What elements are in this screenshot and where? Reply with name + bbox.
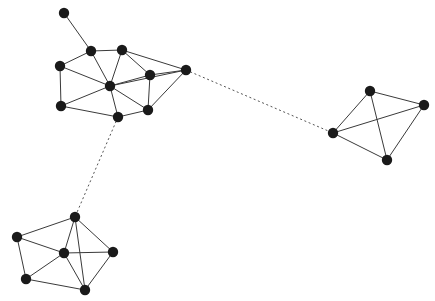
graph-node[interactable]: [12, 232, 22, 242]
graph-node[interactable]: [108, 247, 118, 257]
network-graph-svg: [0, 0, 435, 301]
bridge-edge: [75, 117, 118, 217]
graph-edge: [333, 105, 424, 133]
graph-node[interactable]: [117, 45, 127, 55]
graph-edge: [122, 50, 150, 75]
graph-node[interactable]: [143, 105, 153, 115]
graph-node[interactable]: [145, 70, 155, 80]
graph-node[interactable]: [21, 274, 31, 284]
graph-node[interactable]: [59, 248, 69, 258]
edge-layer: [17, 13, 424, 290]
graph-edge: [64, 217, 75, 253]
graph-edge: [85, 252, 113, 290]
graph-edge: [17, 237, 64, 253]
graph-edge: [333, 91, 370, 133]
graph-node[interactable]: [86, 46, 96, 56]
graph-edge: [91, 51, 110, 86]
graph-edge: [26, 279, 85, 290]
graph-edge: [148, 75, 150, 110]
graph-edge: [64, 253, 85, 290]
graph-edge: [122, 50, 186, 70]
graph-node[interactable]: [59, 8, 69, 18]
graph-edge: [64, 13, 91, 51]
graph-node[interactable]: [419, 100, 429, 110]
graph-edge: [370, 91, 424, 105]
graph-edge: [61, 106, 118, 117]
graph-edge: [61, 86, 110, 106]
graph-node[interactable]: [113, 112, 123, 122]
graph-edge: [110, 50, 122, 86]
graph-node[interactable]: [105, 81, 115, 91]
graph-node[interactable]: [181, 65, 191, 75]
graph-edge: [17, 237, 26, 279]
network-graph-canvas: [0, 0, 435, 301]
graph-node[interactable]: [55, 61, 65, 71]
bridge-edge: [186, 70, 333, 133]
graph-node[interactable]: [365, 86, 375, 96]
graph-node[interactable]: [328, 128, 338, 138]
graph-node[interactable]: [382, 155, 392, 165]
graph-edge: [17, 217, 75, 237]
graph-edge: [75, 217, 85, 290]
graph-node[interactable]: [70, 212, 80, 222]
graph-edge: [387, 105, 424, 160]
node-layer: [12, 8, 429, 295]
graph-node[interactable]: [80, 285, 90, 295]
graph-edge: [75, 217, 113, 252]
graph-edge: [333, 133, 387, 160]
graph-edge: [64, 252, 113, 253]
graph-node[interactable]: [56, 101, 66, 111]
graph-edge: [60, 66, 110, 86]
graph-edge: [26, 253, 64, 279]
graph-edge: [60, 66, 61, 106]
graph-edge: [370, 91, 387, 160]
